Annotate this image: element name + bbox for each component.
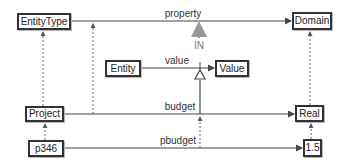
node-1-5: 1.5 [303, 139, 322, 157]
node-real: Real [295, 105, 324, 122]
specialization-triangle [195, 70, 205, 79]
edge-label-budget: budget [165, 102, 196, 112]
node-value: Value [215, 60, 249, 77]
node-entity: Entity [105, 60, 141, 77]
edge-label-property: property [165, 9, 202, 19]
edge-label-pbudget: pbudget [160, 136, 196, 146]
node-domain: Domain [292, 12, 332, 30]
node-p346: p346 [28, 140, 64, 157]
edge-label-in: IN [194, 41, 204, 51]
node-entitytype: EntityType [17, 13, 71, 30]
node-project: Project [25, 106, 64, 122]
edge-label-value: value [165, 56, 189, 66]
